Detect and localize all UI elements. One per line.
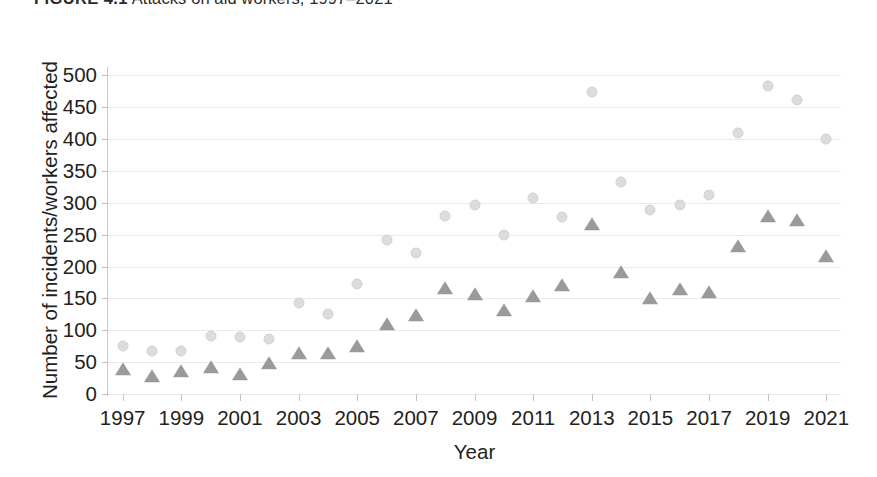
data-point-circle — [440, 211, 451, 222]
data-point-circle — [234, 331, 245, 342]
x-tick-label: 2007 — [393, 406, 439, 430]
data-point-triangle — [584, 217, 600, 230]
data-point-circle — [704, 189, 715, 200]
data-point-circle — [733, 128, 744, 139]
data-point-triangle — [115, 363, 131, 376]
data-point-circle — [498, 229, 509, 240]
data-point-circle — [674, 200, 685, 211]
y-tick-label: 250 — [63, 223, 97, 247]
y-tick-label: 450 — [63, 95, 97, 119]
y-tick-label: 100 — [63, 318, 97, 342]
data-point-triangle — [408, 308, 424, 321]
x-tick-mark — [299, 394, 300, 401]
y-tick-label: 0 — [86, 382, 97, 406]
data-point-circle — [616, 176, 627, 187]
y-tick-mark — [102, 75, 108, 76]
data-point-circle — [410, 248, 421, 259]
x-tick-label: 2013 — [569, 406, 615, 430]
x-tick-label: 2003 — [276, 406, 322, 430]
y-tick-label: 350 — [63, 159, 97, 183]
x-tick-label: 2011 — [511, 406, 555, 430]
x-tick-mark — [357, 394, 358, 401]
y-tick-label: 200 — [63, 255, 97, 279]
y-tick-mark — [102, 298, 108, 299]
data-point-triangle — [701, 286, 717, 299]
gridline — [108, 107, 841, 108]
y-tick-label: 500 — [63, 63, 97, 87]
data-point-circle — [176, 345, 187, 356]
data-point-triangle — [261, 356, 277, 369]
data-point-triangle — [730, 240, 746, 253]
y-tick-mark — [102, 139, 108, 140]
x-tick-mark — [416, 394, 417, 401]
data-point-triangle — [496, 303, 512, 316]
data-point-triangle — [818, 249, 834, 262]
data-point-triangle — [291, 346, 307, 359]
x-tick-label: 2009 — [452, 406, 498, 430]
y-axis-line — [107, 67, 108, 396]
y-tick-mark — [102, 394, 108, 395]
data-point-triangle — [672, 282, 688, 295]
gridline — [108, 171, 841, 172]
data-point-circle — [528, 192, 539, 203]
x-tick-label: 1999 — [158, 406, 204, 430]
y-tick-mark — [102, 330, 108, 331]
x-tick-label: 1997 — [100, 406, 146, 430]
data-point-circle — [557, 212, 568, 223]
data-point-triangle — [437, 281, 453, 294]
figure-root: FIGURE 4.1 Attacks on aid workers, 1997–… — [0, 0, 877, 477]
x-tick-mark — [533, 394, 534, 401]
x-tick-mark — [240, 394, 241, 401]
data-point-triangle — [232, 367, 248, 380]
gridline — [108, 139, 841, 140]
x-tick-label: 2017 — [686, 406, 732, 430]
x-tick-label: 2019 — [745, 406, 791, 430]
data-point-triangle — [467, 287, 483, 300]
data-point-triangle — [320, 346, 336, 359]
data-point-triangle — [613, 265, 629, 278]
data-point-triangle — [789, 213, 805, 226]
y-tick-label: 300 — [63, 191, 97, 215]
y-tick-label: 400 — [63, 127, 97, 151]
data-point-triangle — [173, 365, 189, 378]
data-point-triangle — [203, 360, 219, 373]
gridline — [108, 267, 841, 268]
x-tick-label: 2001 — [217, 406, 263, 430]
data-point-triangle — [349, 339, 365, 352]
y-tick-mark — [102, 362, 108, 363]
data-point-triangle — [144, 369, 160, 382]
y-tick-mark — [102, 203, 108, 204]
data-point-circle — [381, 235, 392, 246]
gridline — [108, 235, 841, 236]
data-point-circle — [821, 134, 832, 145]
data-point-triangle — [642, 291, 658, 304]
x-tick-mark — [123, 394, 124, 401]
data-point-circle — [762, 81, 773, 92]
data-point-triangle — [554, 278, 570, 291]
scatter-chart: Number of incidents/workers affected Yea… — [0, 0, 877, 477]
data-point-triangle — [525, 289, 541, 302]
y-tick-label: 150 — [63, 286, 97, 310]
x-tick-label: 2005 — [334, 406, 380, 430]
data-point-circle — [645, 204, 656, 215]
data-point-circle — [293, 297, 304, 308]
x-tick-mark — [181, 394, 182, 401]
x-axis-title: Year — [108, 440, 841, 464]
x-tick-mark — [592, 394, 593, 401]
data-point-triangle — [379, 317, 395, 330]
data-point-circle — [469, 200, 480, 211]
data-point-circle — [322, 308, 333, 319]
data-point-circle — [146, 346, 157, 357]
data-point-triangle — [760, 210, 776, 223]
data-point-circle — [792, 95, 803, 106]
x-tick-mark — [709, 394, 710, 401]
y-tick-mark — [102, 267, 108, 268]
gridline — [108, 330, 841, 331]
x-tick-label: 2021 — [804, 406, 850, 430]
x-tick-label: 2015 — [628, 406, 674, 430]
x-tick-mark — [475, 394, 476, 401]
x-tick-mark — [768, 394, 769, 401]
y-axis-title: Number of incidents/workers affected — [38, 30, 62, 430]
data-point-circle — [352, 279, 363, 290]
data-point-circle — [205, 331, 216, 342]
